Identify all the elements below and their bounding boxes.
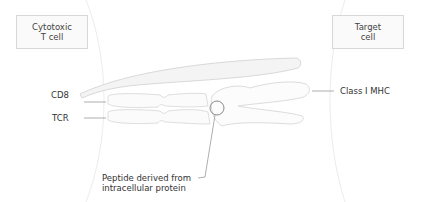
peptide-label-line1: Peptide derived from bbox=[102, 173, 191, 183]
tcr-beta-chain bbox=[108, 110, 210, 124]
peptide-label: Peptide derived from intracellular prote… bbox=[102, 173, 191, 193]
tcr-alpha-chain bbox=[108, 93, 208, 107]
class-i-mhc-label: Class I MHC bbox=[340, 86, 390, 96]
cytotoxic-t-cell-box: Cytotoxic T cell bbox=[16, 15, 88, 49]
class-i-mhc-molecule bbox=[211, 82, 309, 126]
cell-label: cell bbox=[355, 32, 381, 42]
cytotoxic-label: Cytotoxic bbox=[32, 22, 72, 32]
tcr-label: TCR bbox=[52, 113, 69, 123]
peptide-label-line2: intracellular protein bbox=[102, 183, 191, 193]
cd8-label: CD8 bbox=[51, 90, 69, 100]
t-cell-label: T cell bbox=[32, 32, 72, 42]
t-cell-membrane bbox=[86, 0, 104, 202]
target-cell-box: Target cell bbox=[332, 15, 404, 49]
target-label: Target bbox=[355, 22, 381, 32]
